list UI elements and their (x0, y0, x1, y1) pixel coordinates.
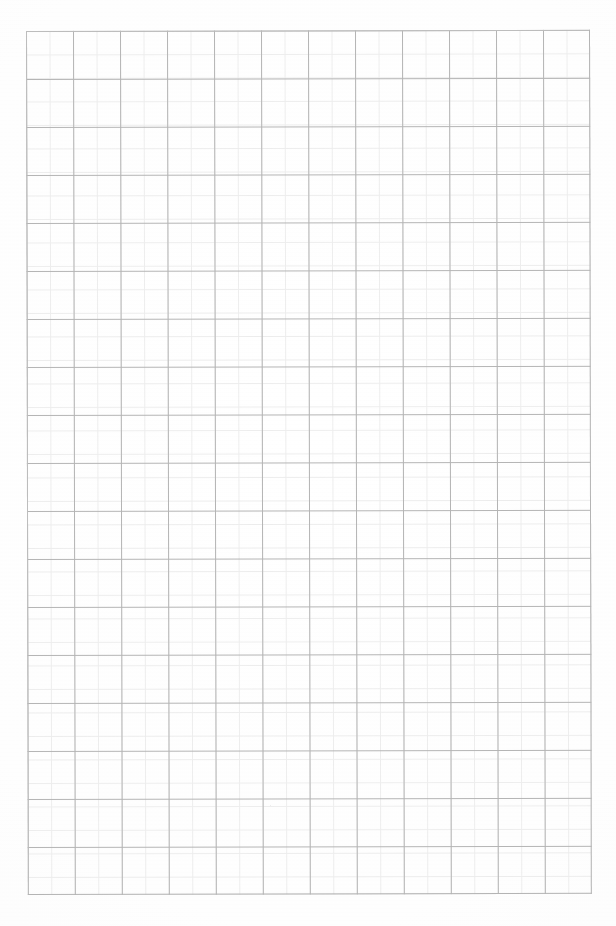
grid-area (26, 30, 592, 895)
major-gridlines (26, 30, 592, 895)
graph-paper-page (0, 0, 616, 926)
